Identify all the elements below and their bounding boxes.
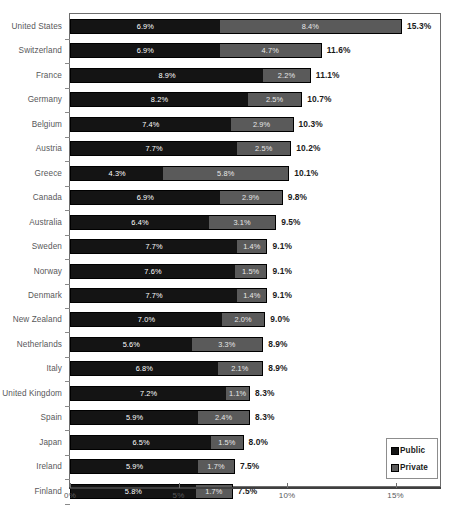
bar-total-label: 10.7% xyxy=(307,92,331,107)
bar-segment-public: 7.4% xyxy=(70,117,231,132)
bar-total-label: 11.6% xyxy=(327,43,351,58)
x-axis-tick-label: 15% xyxy=(387,491,403,500)
bar-value-private: 2.4% xyxy=(215,413,232,422)
bar-value-public: 5.9% xyxy=(126,413,143,422)
bar-segment-public: 6.9% xyxy=(70,43,220,58)
bar-segment-private: 2.0% xyxy=(222,312,265,327)
stacked-bar: 6.9%8.4% xyxy=(70,19,402,34)
y-axis-tick xyxy=(65,63,70,64)
bar-value-private: 2.1% xyxy=(231,364,248,373)
bar-value-private: 8.4% xyxy=(302,22,319,31)
bar-total-label: 8.0% xyxy=(249,435,269,450)
bar-value-public: 7.7% xyxy=(145,242,162,251)
category-label: United Kingdom xyxy=(0,386,62,401)
bar-row: France8.9%2.2%11.1% xyxy=(0,68,455,83)
y-axis-tick xyxy=(65,112,70,113)
bar-row: Switzerland6.9%4.7%11.6% xyxy=(0,43,455,58)
bar-segment-private: 1.1% xyxy=(226,386,250,401)
stacked-bar: 7.2%1.1% xyxy=(70,386,250,401)
stacked-bar: 7.6%1.5% xyxy=(70,264,267,279)
stacked-bar: 7.7%2.5% xyxy=(70,141,291,156)
bar-total-label: 8.9% xyxy=(268,361,288,376)
bar-value-public: 6.9% xyxy=(137,46,154,55)
bar-row: Spain5.9%2.4%8.3% xyxy=(0,410,455,425)
category-label: Japan xyxy=(0,435,62,450)
category-label: New Zealand xyxy=(0,312,62,327)
bar-segment-public: 5.9% xyxy=(70,410,198,425)
category-label: Austria xyxy=(0,141,62,156)
legend-label-public: Public xyxy=(400,446,425,455)
bar-value-private: 2.5% xyxy=(255,144,272,153)
stacked-bar: 6.9%2.9% xyxy=(70,190,283,205)
bar-value-private: 1.4% xyxy=(243,242,260,251)
y-axis-tick xyxy=(65,381,70,382)
y-axis-tick xyxy=(65,186,70,187)
bar-row: Belgium7.4%2.9%10.3% xyxy=(0,117,455,132)
bar-segment-private: 2.5% xyxy=(248,92,302,107)
stacked-bar: 5.8%1.7% xyxy=(70,484,233,499)
bar-total-label: 8.3% xyxy=(255,410,275,425)
x-axis-tick xyxy=(70,483,71,488)
y-axis-tick xyxy=(65,210,70,211)
bar-value-private: 2.9% xyxy=(242,193,259,202)
stacked-bar: 7.7%1.4% xyxy=(70,288,267,303)
bar-segment-public: 7.6% xyxy=(70,264,235,279)
bar-total-label: 10.3% xyxy=(299,117,323,132)
bar-row: Netherlands5.6%3.3%8.9% xyxy=(0,337,455,352)
category-label: Germany xyxy=(0,92,62,107)
stacked-bar: 5.9%2.4% xyxy=(70,410,250,425)
category-label: Belgium xyxy=(0,117,62,132)
bar-segment-public: 7.7% xyxy=(70,141,237,156)
bar-segment-private: 3.3% xyxy=(192,337,264,352)
legend-swatch-public-icon xyxy=(391,447,399,455)
category-label: Canada xyxy=(0,190,62,205)
bar-value-private: 2.9% xyxy=(253,120,270,129)
bar-total-label: 10.1% xyxy=(294,166,318,181)
y-axis-tick xyxy=(65,455,70,456)
bar-value-public: 8.2% xyxy=(151,95,168,104)
bar-total-label: 10.2% xyxy=(296,141,320,156)
y-axis-tick xyxy=(65,479,70,480)
bar-segment-private: 1.5% xyxy=(235,264,268,279)
y-axis-tick xyxy=(65,137,70,138)
bar-segment-public: 6.8% xyxy=(70,361,218,376)
bar-segment-private: 5.8% xyxy=(163,166,289,181)
x-axis-tick xyxy=(396,483,397,488)
y-axis-tick xyxy=(65,406,70,407)
bar-row: New Zealand7.0%2.0%9.0% xyxy=(0,312,455,327)
x-axis-tick-label: 5% xyxy=(173,491,185,500)
bar-value-private: 1.1% xyxy=(229,389,246,398)
bar-segment-private: 2.1% xyxy=(218,361,264,376)
bar-row: Canada6.9%2.9%9.8% xyxy=(0,190,455,205)
category-label: Denmark xyxy=(0,288,62,303)
y-axis-tick xyxy=(65,88,70,89)
y-axis-tick xyxy=(65,235,70,236)
category-label: Australia xyxy=(0,215,62,230)
bar-value-public: 6.5% xyxy=(132,438,149,447)
bar-row: Germany8.2%2.5%10.7% xyxy=(0,92,455,107)
bar-segment-public: 7.7% xyxy=(70,288,237,303)
y-axis-tick xyxy=(65,161,70,162)
y-axis-tick xyxy=(65,332,70,333)
stacked-bar: 6.8%2.1% xyxy=(70,361,263,376)
bar-row: Sweden7.7%1.4%9.1% xyxy=(0,239,455,254)
bar-value-public: 7.4% xyxy=(142,120,159,129)
bar-total-label: 7.5% xyxy=(238,484,258,499)
x-axis-tick xyxy=(179,483,180,488)
y-axis-tick xyxy=(65,504,70,505)
chart-legend: Public Private xyxy=(386,438,438,479)
category-label: Switzerland xyxy=(0,43,62,58)
bar-segment-public: 8.2% xyxy=(70,92,248,107)
bar-value-public: 6.8% xyxy=(136,364,153,373)
bar-value-public: 6.9% xyxy=(137,193,154,202)
bar-total-label: 9.1% xyxy=(272,288,292,303)
bar-total-label: 7.5% xyxy=(240,459,260,474)
bar-value-public: 7.7% xyxy=(145,144,162,153)
bar-segment-public: 5.6% xyxy=(70,337,192,352)
bar-value-public: 6.9% xyxy=(137,22,154,31)
bar-row: Austria7.7%2.5%10.2% xyxy=(0,141,455,156)
bar-total-label: 9.8% xyxy=(288,190,308,205)
x-axis-tick-label: 10% xyxy=(279,491,295,500)
bar-value-public: 7.7% xyxy=(145,291,162,300)
bar-value-private: 1.5% xyxy=(242,267,259,276)
